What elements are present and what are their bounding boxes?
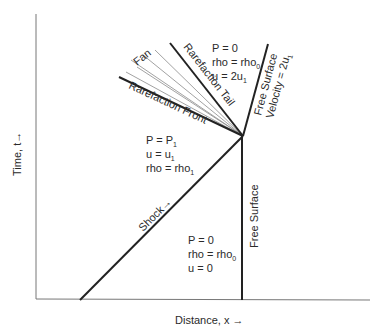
svg-text:u = 2u1: u = 2u1	[212, 70, 247, 84]
fan-label: Fan	[131, 46, 153, 67]
region-top-state: P = 0 rho = rho0 u = 2u1	[212, 42, 260, 84]
wave-diagram: Fan Rarefaction Front Rarefaction Tail F…	[0, 0, 380, 336]
shock-label: Shock→	[136, 196, 174, 234]
svg-text:P = P1: P = P1	[146, 134, 177, 148]
shock-line	[80, 136, 243, 300]
y-axis-label: Time, t→	[11, 132, 23, 176]
free-surface-label: Free Surface	[248, 184, 260, 248]
rarefaction-front-label: Rarefaction Front	[127, 79, 209, 126]
svg-text:P = 0: P = 0	[188, 234, 214, 246]
x-axis-label: Distance, x →	[175, 314, 243, 326]
region-unshocked-state: P = 0 rho = rho0 u = 0	[188, 234, 236, 274]
svg-text:u = 0: u = 0	[188, 262, 213, 274]
x-axis	[36, 299, 370, 300]
svg-text:u = u1: u = u1	[146, 148, 175, 162]
svg-text:rho = rho0: rho = rho0	[212, 56, 260, 70]
svg-text:rho = rho1: rho = rho1	[146, 162, 194, 176]
svg-text:rho = rho0: rho = rho0	[188, 248, 236, 262]
svg-text:P = 0: P = 0	[212, 42, 238, 54]
region-shocked-state: P = P1 u = u1 rho = rho1	[146, 134, 194, 176]
